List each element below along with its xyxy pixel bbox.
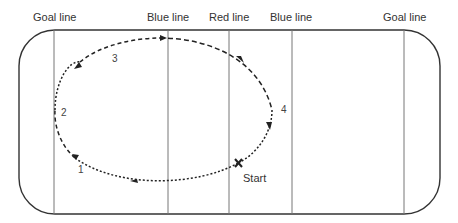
- rink-diagram: [0, 0, 458, 223]
- path-segment-start-to-1: [75, 158, 238, 181]
- path-point-1-label: 1: [78, 164, 84, 175]
- start-marker-icon: [235, 159, 242, 167]
- path-segment-3-to-top: [80, 38, 160, 62]
- start-label: Start: [243, 172, 266, 184]
- path-point-2-label: 2: [61, 107, 67, 118]
- path-segment-4-to-start: [238, 110, 272, 163]
- arrow-icon: [266, 122, 272, 130]
- arrow-icon: [130, 179, 138, 183]
- path-point-4-label: 4: [281, 104, 287, 115]
- path-point-3-label: 3: [112, 53, 118, 64]
- arrow-icon: [160, 35, 167, 41]
- path-segment-2-to-3: [55, 62, 80, 110]
- path-segment-top-to-4: [160, 38, 272, 110]
